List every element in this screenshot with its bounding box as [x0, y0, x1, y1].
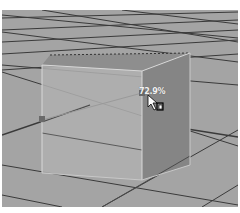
- cube-front-face: [42, 65, 142, 180]
- scene: [2, 10, 238, 207]
- grid-line: [2, 12, 238, 18]
- cube-side-face: [142, 53, 190, 180]
- grid-line: [2, 20, 238, 30]
- grid-line: [2, 15, 238, 38]
- scale-handle-left[interactable]: [39, 116, 45, 122]
- grid-line: [2, 195, 62, 207]
- viewport-3d[interactable]: 72.9%: [2, 10, 238, 207]
- scale-readout: 72.9%: [139, 87, 165, 96]
